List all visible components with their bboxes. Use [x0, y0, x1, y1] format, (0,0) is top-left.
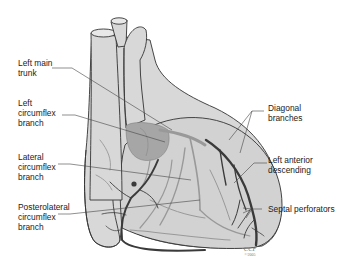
label-septal-perforators: Septal perforators — [268, 204, 335, 214]
label-left-circumflex-branch: Left circumflex branch — [18, 98, 56, 128]
credit: CCF ©2005 — [237, 245, 263, 257]
credit-year: ©2005 — [237, 252, 263, 257]
label-left-main-trunk: Left main trunk — [18, 58, 52, 78]
label-left-anterior-descending: Left anterior descending — [268, 155, 313, 175]
label-lateral-circumflex-branch: Lateral circumflex branch — [18, 152, 56, 182]
label-posterolateral-circumflex-branch: Posterolateral circumflex branch — [18, 202, 70, 232]
label-diagonal-branches: Diagonal branches — [268, 103, 302, 123]
coronary-artery-diagram: Left main trunk Left circumflex branch L… — [0, 0, 349, 268]
credit-org: CCF — [237, 245, 263, 252]
